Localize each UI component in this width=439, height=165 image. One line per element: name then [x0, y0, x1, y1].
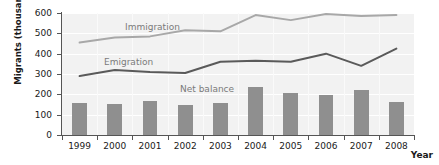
y-tick-label: 500	[0, 28, 52, 38]
net-balance-series-label: Net balance	[180, 84, 234, 94]
emigration-series-label: Emigration	[104, 57, 153, 67]
y-tick-label: 300	[0, 69, 52, 79]
x-tick	[379, 136, 380, 140]
x-tick	[203, 136, 204, 140]
x-tick	[414, 136, 415, 140]
x-tick	[168, 136, 169, 140]
x-tick	[97, 136, 98, 140]
y-tick-label: 0	[0, 130, 52, 140]
x-tick	[62, 136, 63, 140]
x-tick	[238, 136, 239, 140]
x-tick	[273, 136, 274, 140]
x-tick	[132, 136, 133, 140]
y-tick-label: 600	[0, 8, 52, 18]
x-axis-title: Year	[411, 150, 433, 160]
migration-chart: Migrants (thousands) 0100200300400500600…	[0, 0, 439, 165]
y-tick-label: 100	[0, 110, 52, 120]
y-tick-label: 400	[0, 49, 52, 59]
line-series-layer	[62, 13, 414, 135]
x-tick	[308, 136, 309, 140]
immigration-series-label: Immigration	[125, 22, 180, 32]
y-tick-label: 200	[0, 89, 52, 99]
x-tick	[344, 136, 345, 140]
